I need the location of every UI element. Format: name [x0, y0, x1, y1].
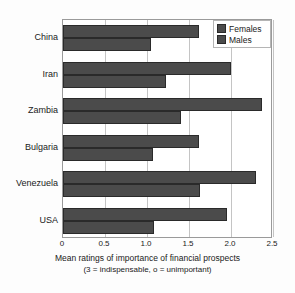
bar — [63, 75, 166, 88]
chart-legend: FemalesMales — [213, 20, 271, 48]
category-label-china: China — [0, 32, 58, 42]
bar — [63, 25, 199, 38]
value-axis-ticks: 00.51.01.52.02.5 — [62, 239, 272, 251]
category-label-venezuela: Venezuela — [0, 178, 58, 188]
bar — [63, 148, 153, 161]
bar — [63, 208, 227, 221]
legend-label: Females — [229, 24, 262, 34]
bar — [63, 98, 262, 111]
x-tick-label: 1.0 — [140, 239, 151, 249]
bar — [63, 171, 256, 184]
x-tick-label: 2.0 — [224, 239, 235, 249]
axis-caption: Mean ratings of importance of financial … — [0, 252, 295, 276]
axis-title-line1: Mean ratings of importance of financial … — [0, 252, 295, 264]
gridline — [273, 20, 274, 237]
axis-title-line2: (3 = indispensable, o = unimportant) — [0, 264, 295, 276]
plot-area — [62, 19, 272, 238]
category-label-usa: USA — [0, 215, 58, 225]
bar — [63, 111, 181, 124]
bar — [63, 62, 231, 75]
x-tick-label: 2.5 — [266, 239, 277, 249]
x-tick-label: 0 — [60, 239, 64, 249]
bar — [63, 184, 200, 197]
bar-chart-figure: ChinaIranZambiaBulgariaVenezuelaUSA 00.5… — [0, 0, 295, 293]
bars-layer — [63, 20, 271, 237]
category-label-iran: Iran — [0, 69, 58, 79]
category-label-bulgaria: Bulgaria — [0, 142, 58, 152]
category-label-zambia: Zambia — [0, 105, 58, 115]
legend-item: Females — [217, 23, 268, 34]
bar — [63, 38, 151, 51]
legend-swatch-icon — [217, 35, 226, 44]
legend-label: Males — [229, 35, 252, 45]
bar — [63, 221, 154, 234]
category-axis-labels: ChinaIranZambiaBulgariaVenezuelaUSA — [0, 19, 58, 238]
legend-item: Males — [217, 34, 268, 45]
bar — [63, 135, 199, 148]
x-tick-label: 0.5 — [98, 239, 109, 249]
legend-swatch-icon — [217, 24, 226, 33]
x-tick-label: 1.5 — [182, 239, 193, 249]
